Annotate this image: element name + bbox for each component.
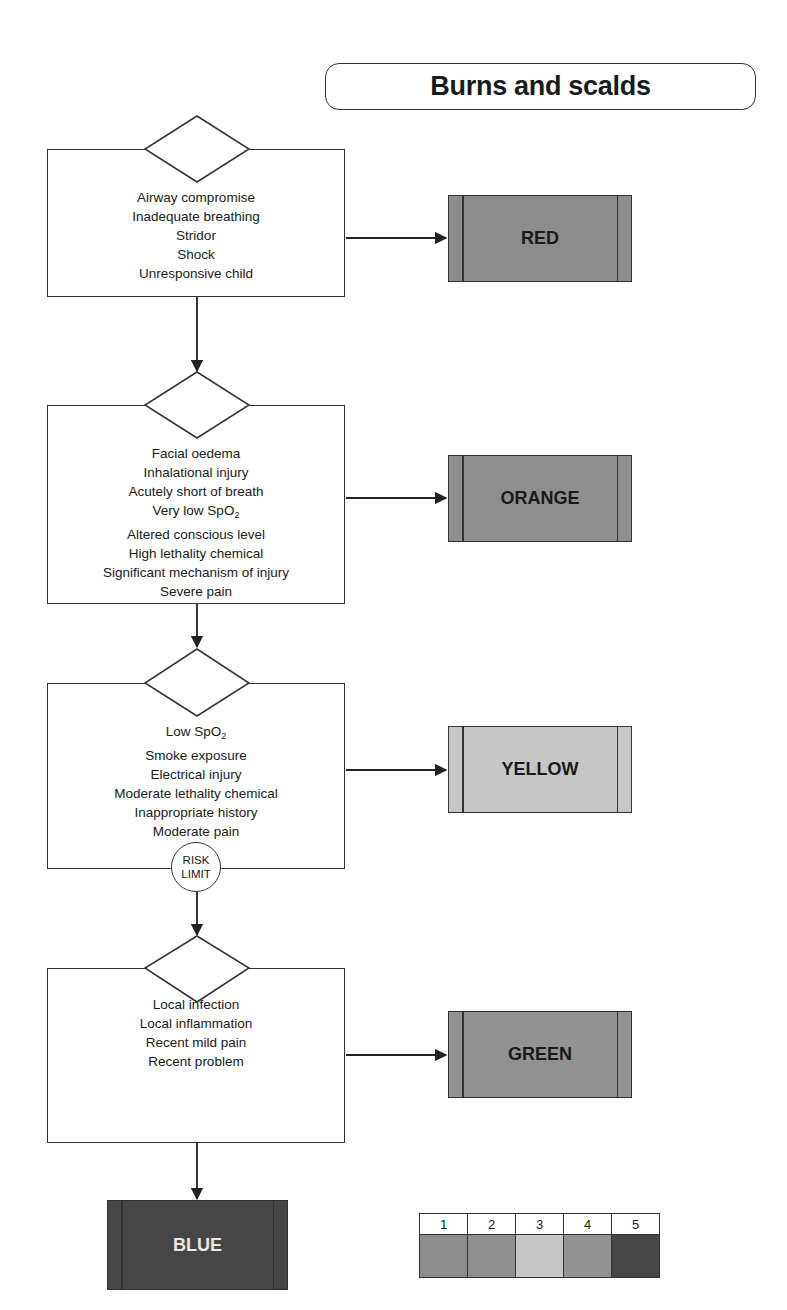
outcome-label: YELLOW bbox=[502, 759, 579, 780]
criteria-list-4: Local infection Local inflammation Recen… bbox=[48, 995, 344, 1071]
decision-box-1: Airway compromise Inadequate breathing S… bbox=[47, 149, 345, 297]
outcome-green: GREEN bbox=[448, 1011, 632, 1098]
criterion: Local infection bbox=[48, 995, 344, 1014]
decision-box-4: Local infection Local inflammation Recen… bbox=[47, 968, 345, 1143]
legend-number: 3 bbox=[516, 1214, 564, 1235]
legend-swatch-5 bbox=[612, 1235, 660, 1278]
legend-number: 1 bbox=[420, 1214, 468, 1235]
outcome-orange: ORANGE bbox=[448, 455, 632, 542]
legend-number: 5 bbox=[612, 1214, 660, 1235]
outcome-blue: BLUE bbox=[107, 1200, 288, 1290]
legend-swatch-3 bbox=[516, 1235, 564, 1278]
criterion: Shock bbox=[48, 245, 344, 264]
criterion: Low SpO2 bbox=[48, 722, 344, 746]
legend-number: 4 bbox=[564, 1214, 612, 1235]
criterion: Acutely short of breath bbox=[48, 482, 344, 501]
outcome-label: BLUE bbox=[173, 1235, 222, 1256]
criterion: Recent mild pain bbox=[48, 1033, 344, 1052]
criterion: Electrical injury bbox=[48, 765, 344, 784]
criterion: High lethality chemical bbox=[48, 544, 344, 563]
criteria-list-3: Low SpO2 Smoke exposure Electrical injur… bbox=[48, 722, 344, 841]
criterion: Airway compromise bbox=[48, 188, 344, 207]
criterion: Inappropriate history bbox=[48, 803, 344, 822]
outcome-label: GREEN bbox=[508, 1044, 572, 1065]
criteria-list-2: Facial oedema Inhalational injury Acutel… bbox=[48, 444, 344, 601]
outcome-yellow: YELLOW bbox=[448, 726, 632, 813]
legend-swatch-4 bbox=[564, 1235, 612, 1278]
criterion: Local inflammation bbox=[48, 1014, 344, 1033]
risk-limit-line1: RISK bbox=[183, 853, 210, 867]
criterion: Inadequate breathing bbox=[48, 207, 344, 226]
legend-swatch-1 bbox=[420, 1235, 468, 1278]
criterion: Severe pain bbox=[48, 582, 344, 601]
outcome-label: RED bbox=[521, 228, 559, 249]
criterion: Inhalational injury bbox=[48, 463, 344, 482]
criterion: Stridor bbox=[48, 226, 344, 245]
risk-limit-marker: RISK LIMIT bbox=[171, 842, 221, 892]
criterion: Moderate pain bbox=[48, 822, 344, 841]
legend-swatch-2 bbox=[468, 1235, 516, 1278]
criterion: Very low SpO2 bbox=[48, 501, 344, 525]
criterion: Recent problem bbox=[48, 1052, 344, 1071]
decision-box-2: Facial oedema Inhalational injury Acutel… bbox=[47, 405, 345, 604]
criterion: Moderate lethality chemical bbox=[48, 784, 344, 803]
criteria-list-1: Airway compromise Inadequate breathing S… bbox=[48, 188, 344, 283]
criterion: Altered conscious level bbox=[48, 525, 344, 544]
outcome-red: RED bbox=[448, 195, 632, 282]
criterion: Unresponsive child bbox=[48, 264, 344, 283]
legend-number: 2 bbox=[468, 1214, 516, 1235]
risk-limit-line2: LIMIT bbox=[181, 867, 210, 881]
priority-legend: 1 2 3 4 5 bbox=[419, 1213, 660, 1278]
criterion: Significant mechanism of injury bbox=[48, 563, 344, 582]
criterion: Facial oedema bbox=[48, 444, 344, 463]
outcome-label: ORANGE bbox=[500, 488, 579, 509]
criterion: Smoke exposure bbox=[48, 746, 344, 765]
